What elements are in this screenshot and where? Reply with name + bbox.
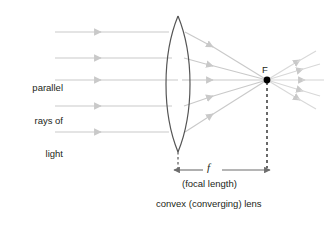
- converging-ray-2-tail: [210, 65, 267, 80]
- diverging-ray-5-tail: [297, 98, 316, 109]
- converging-ray-5: [185, 114, 213, 132]
- parallel-rays-label-line3: light: [8, 148, 63, 159]
- lens-caption-label: convex (converging) lens: [156, 198, 262, 209]
- converging-ray-5-tail: [210, 80, 267, 116]
- diverging-rays-group: [267, 51, 324, 109]
- focal-length-text-label: (focal length): [182, 178, 237, 189]
- diverging-ray-4: [267, 80, 303, 91]
- parallel-rays-label: parallel rays of light: [8, 60, 63, 181]
- focal-point-dot: [264, 77, 271, 84]
- diverging-ray-1: [267, 60, 300, 80]
- converging-rays-group: [182, 32, 267, 132]
- converging-ray-4: [184, 96, 213, 106]
- diverging-ray-5: [267, 80, 300, 100]
- incoming-parallel-rays-group: [55, 32, 178, 132]
- focal-point-label: F: [262, 64, 268, 75]
- lens-ray-diagram: parallel rays of light F f (focal length…: [0, 0, 326, 226]
- focal-length-symbol-label: f: [207, 162, 210, 173]
- converging-ray-1-tail: [210, 45, 267, 80]
- parallel-rays-label-line2: rays of: [8, 115, 63, 126]
- converging-ray-4-tail: [210, 80, 267, 97]
- diverging-ray-4-tail: [300, 90, 320, 96]
- parallel-rays-label-line1: parallel: [8, 82, 63, 93]
- lens-right-surface: [178, 16, 190, 152]
- diverging-ray-2: [267, 69, 303, 80]
- converging-ray-1: [185, 32, 213, 47]
- diverging-ray-1-tail: [297, 51, 316, 62]
- diverging-ray-2-tail: [300, 64, 320, 70]
